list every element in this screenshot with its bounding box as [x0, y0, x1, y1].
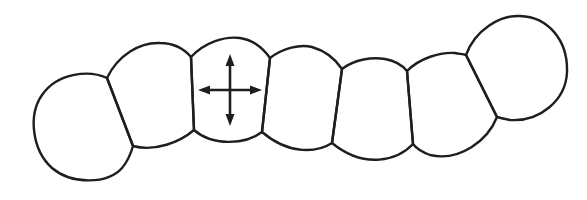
cell-2 [107, 43, 194, 148]
cell-7 [466, 16, 567, 120]
cell-chain-diagram: Chain of cells with central cell showing… [0, 0, 587, 200]
cell-6 [407, 53, 497, 156]
move-arrows-icon [198, 54, 262, 126]
cell-1 [34, 74, 133, 181]
cell-4 [262, 46, 342, 150]
cell-5 [332, 58, 413, 159]
